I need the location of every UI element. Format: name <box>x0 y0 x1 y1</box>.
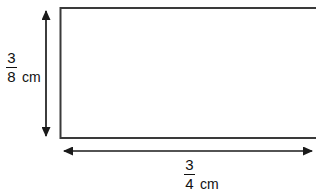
width-denominator: 4 <box>184 176 194 191</box>
height-unit: cm <box>22 70 41 85</box>
rectangle-dimension-figure <box>0 0 316 191</box>
diagram-canvas: 3 8 cm 3 4 cm <box>0 0 316 191</box>
height-numerator: 3 <box>6 50 16 66</box>
width-fraction: 3 4 <box>184 157 195 191</box>
rectangle-outline <box>61 8 317 138</box>
width-unit: cm <box>200 177 219 192</box>
width-dimension-label: 3 4 cm <box>184 157 219 191</box>
height-denominator: 8 <box>6 69 16 85</box>
height-fraction: 3 8 <box>6 50 17 85</box>
width-numerator: 3 <box>184 157 194 173</box>
height-dimension-label: 3 8 cm <box>6 50 41 85</box>
